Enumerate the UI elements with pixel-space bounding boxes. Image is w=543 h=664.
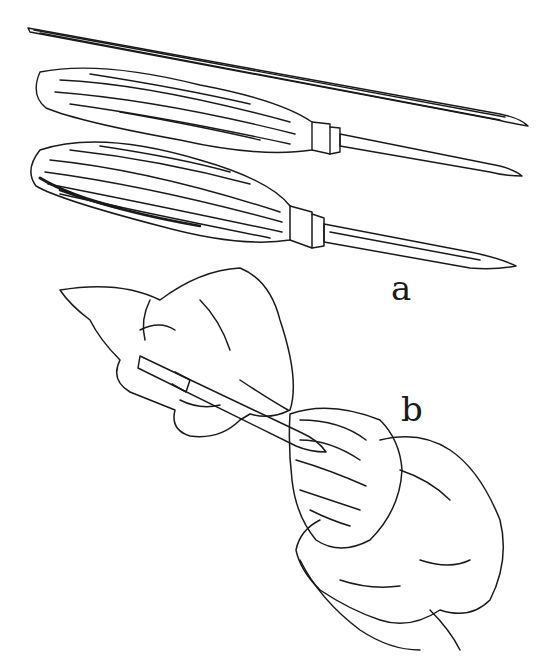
carving-hands xyxy=(60,268,503,650)
line-art xyxy=(0,0,543,664)
knife-handle-2 xyxy=(36,68,522,176)
bare-blade xyxy=(28,28,528,126)
knife-handle-3 xyxy=(31,142,516,269)
label-a: a xyxy=(391,271,411,305)
illustration: a b xyxy=(0,0,543,664)
label-b: b xyxy=(401,392,423,426)
